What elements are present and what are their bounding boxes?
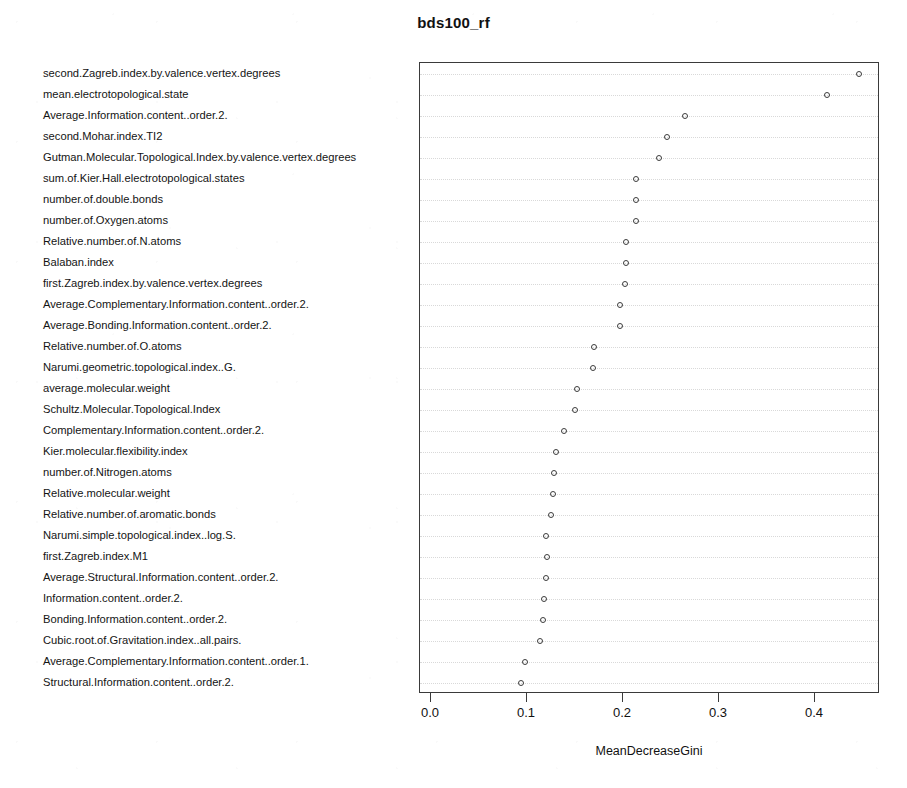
variable-label: number.of.Nitrogen.atoms <box>43 467 172 478</box>
data-point <box>617 323 623 329</box>
x-tick-label: 0.0 <box>421 705 439 720</box>
variable-label: Average.Structural.Information.content..… <box>43 572 278 583</box>
variable-label: Cubic.root.of.Gravitation.index..all.pai… <box>43 635 241 646</box>
data-point <box>590 365 596 371</box>
data-point <box>617 302 623 308</box>
data-point <box>622 281 628 287</box>
variable-label: number.of.double.bonds <box>43 193 163 204</box>
variable-label: Gutman.Molecular.Topological.Index.by.va… <box>43 151 356 162</box>
x-tick-mark <box>718 693 719 702</box>
variable-label: Relative.molecular.weight <box>43 488 170 499</box>
data-point <box>574 386 580 392</box>
x-tick-label: 0.2 <box>613 705 631 720</box>
data-point <box>543 533 549 539</box>
data-point <box>544 554 550 560</box>
variable-label: sum.of.Kier.Hall.electrotopological.stat… <box>43 172 244 183</box>
data-point <box>591 344 597 350</box>
data-point <box>540 617 546 623</box>
variable-label: second.Mohar.index.TI2 <box>43 130 162 141</box>
variable-label: Average.Bonding.Information.content..ord… <box>43 319 272 330</box>
variable-label: Relative.number.of.N.atoms <box>43 235 181 246</box>
x-tick-mark <box>814 693 815 702</box>
x-tick-label: 0.1 <box>517 705 535 720</box>
variable-label: Balaban.index <box>43 256 114 267</box>
data-point <box>856 71 862 77</box>
variable-label: Bonding.Information.content..order.2. <box>43 614 227 625</box>
data-point <box>633 218 639 224</box>
plot-panel <box>419 62 879 693</box>
data-point <box>633 197 639 203</box>
data-point <box>664 134 670 140</box>
data-point <box>548 512 554 518</box>
data-point <box>572 407 578 413</box>
data-point <box>551 470 557 476</box>
data-point <box>518 680 524 686</box>
variable-label: first.Zagreb.index.M1 <box>43 551 148 562</box>
x-tick-label: 0.3 <box>709 705 727 720</box>
variable-label: Information.content..order.2. <box>43 593 183 604</box>
variable-label: Schultz.Molecular.Topological.Index <box>43 404 220 415</box>
variable-label: Kier.molecular.flexibility.index <box>43 446 188 457</box>
variable-label: Average.Complementary.Information.conten… <box>43 656 309 667</box>
variable-label: mean.electrotopological.state <box>43 88 189 99</box>
variable-label: Average.Information.content..order.2. <box>43 109 228 120</box>
variable-label: Narumi.geometric.topological.index..G. <box>43 361 236 372</box>
x-tick-label: 0.4 <box>805 705 823 720</box>
x-tick-mark <box>622 693 623 702</box>
variable-label: Relative.number.of.aromatic.bonds <box>43 509 216 520</box>
data-point <box>553 449 559 455</box>
data-point <box>633 176 639 182</box>
variable-label: first.Zagreb.index.by.valence.vertex.deg… <box>43 277 262 288</box>
variable-label: Relative.number.of.O.atoms <box>43 340 182 351</box>
data-point <box>522 659 528 665</box>
variable-label: Complementary.Information.content..order… <box>43 425 264 436</box>
data-point <box>623 260 629 266</box>
variable-label: Average.Complementary.Information.conten… <box>43 298 309 309</box>
data-point <box>824 92 830 98</box>
x-axis-label: MeanDecreaseGini <box>419 744 879 758</box>
variable-label: second.Zagreb.index.by.valence.vertex.de… <box>43 67 280 78</box>
data-point <box>537 638 543 644</box>
data-point <box>682 113 688 119</box>
data-point <box>541 596 547 602</box>
data-points <box>420 63 878 692</box>
data-point <box>543 575 549 581</box>
data-point <box>550 491 556 497</box>
variable-label: Narumi.simple.topological.index..log.S. <box>43 530 236 541</box>
data-point <box>656 155 662 161</box>
variable-label: average.molecular.weight <box>43 383 170 394</box>
variable-label: Structural.Information.content..order.2. <box>43 677 234 688</box>
page-title: bds100_rf <box>0 14 907 31</box>
data-point <box>561 428 567 434</box>
x-tick-mark <box>526 693 527 702</box>
data-point <box>623 239 629 245</box>
x-tick-mark <box>430 693 431 702</box>
variable-label: number.of.Oxygen.atoms <box>43 214 168 225</box>
variable-label-column: second.Zagreb.index.by.valence.vertex.de… <box>43 62 415 693</box>
